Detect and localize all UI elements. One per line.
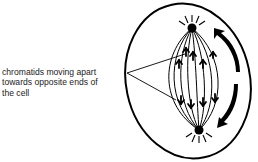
arrow-up-icon [214,28,240,72]
bottom-spindle-pole [186,126,212,144]
anaphase-cell-diagram [0,0,258,162]
top-spindle-pole [179,15,205,33]
spindle-fibres [169,28,218,130]
arrow-down-icon [217,84,238,128]
